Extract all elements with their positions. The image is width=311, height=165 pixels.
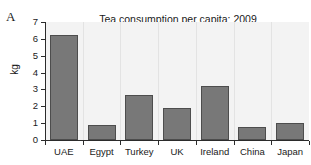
bar-uae xyxy=(50,35,78,140)
x-tick xyxy=(196,141,197,145)
x-tick xyxy=(271,141,272,145)
y-tick-label: 0 xyxy=(8,135,38,145)
x-axis-line xyxy=(45,140,309,141)
x-tick xyxy=(83,141,84,145)
gridline-vertical xyxy=(196,22,197,140)
y-axis-line xyxy=(45,22,46,141)
y-tick-label: 3 xyxy=(8,84,38,94)
bar-china xyxy=(238,127,266,140)
x-tick xyxy=(234,141,235,145)
x-tick xyxy=(120,141,121,145)
plot-area xyxy=(45,22,309,140)
gridline-vertical xyxy=(271,22,272,140)
y-tick xyxy=(41,89,45,90)
bar-ireland xyxy=(201,86,229,140)
x-tick-label-uae: UAE xyxy=(45,147,83,157)
y-tick-label: 6 xyxy=(8,34,38,44)
y-tick xyxy=(41,106,45,107)
gridline-vertical xyxy=(234,22,235,140)
y-tick-label: 2 xyxy=(8,101,38,111)
y-tick xyxy=(41,39,45,40)
y-tick-label: 1 xyxy=(8,118,38,128)
bar-uk xyxy=(163,108,191,140)
y-tick-label: 5 xyxy=(8,51,38,61)
x-tick-label-egypt: Egypt xyxy=(83,147,121,157)
y-tick xyxy=(41,56,45,57)
x-tick-label-japan: Japan xyxy=(271,147,309,157)
bar-egypt xyxy=(88,125,116,140)
x-tick-label-china: China xyxy=(234,147,272,157)
y-tick-label: 4 xyxy=(8,68,38,78)
bar-japan xyxy=(276,123,304,140)
x-tick-label-uk: UK xyxy=(158,147,196,157)
chart-screenshot: A Tea consumption per capita: 2009 kg 01… xyxy=(0,0,311,165)
y-tick xyxy=(41,22,45,23)
gridline-vertical xyxy=(83,22,84,140)
y-tick-label: 7 xyxy=(8,17,38,27)
gridline-vertical xyxy=(120,22,121,140)
x-tick-label-ireland: Ireland xyxy=(196,147,234,157)
gridline-vertical xyxy=(158,22,159,140)
y-tick xyxy=(41,123,45,124)
x-tick xyxy=(309,141,310,145)
bar-turkey xyxy=(125,95,153,141)
x-tick xyxy=(45,141,46,145)
x-tick xyxy=(158,141,159,145)
y-tick xyxy=(41,73,45,74)
x-tick-label-turkey: Turkey xyxy=(120,147,158,157)
top-edge-artifact xyxy=(0,0,311,3)
